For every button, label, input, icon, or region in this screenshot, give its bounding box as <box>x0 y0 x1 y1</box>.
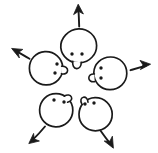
face-upper-left <box>29 52 67 85</box>
eye-dot <box>99 76 102 79</box>
face-lower-left <box>40 94 73 127</box>
eye-dot <box>52 98 55 101</box>
face-top <box>61 29 97 69</box>
eye-dot <box>92 101 95 104</box>
arrow-lower-left-icon <box>29 127 45 144</box>
arrow-up-icon <box>74 4 84 26</box>
eye-dot <box>55 62 58 65</box>
face-lower-right <box>79 97 112 131</box>
face-upper-right <box>89 57 127 90</box>
eye-dot <box>70 52 73 55</box>
arrow-lower-right-icon <box>100 131 113 149</box>
eye-dot <box>99 66 102 69</box>
eye-dot <box>83 102 86 105</box>
arrow-right-icon <box>131 60 151 70</box>
eye-dot <box>53 71 56 74</box>
eye-dot <box>62 100 65 103</box>
illustration-canvas <box>0 0 158 153</box>
hand-drawn-sketch <box>0 0 158 153</box>
arrow-upper-left-icon <box>12 48 30 58</box>
eye-dot <box>80 52 83 55</box>
